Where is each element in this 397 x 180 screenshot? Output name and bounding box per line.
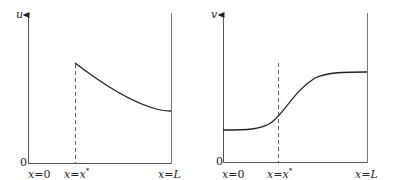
- right-tick-x0: x=0: [222, 168, 244, 180]
- left-ylabel: u: [16, 8, 23, 21]
- left-curve-u: [75, 63, 171, 111]
- left-tick-x0: x=0: [28, 168, 50, 180]
- right-tick-xL: x=L: [355, 168, 378, 180]
- left-tick-xL: x=L: [158, 168, 181, 180]
- right-tick-xstar: x=x*: [267, 167, 293, 180]
- right-ylabel: v: [211, 8, 218, 21]
- left-plot-u: u 0 x=0 x=x* x=L: [16, 8, 181, 180]
- diagram-canvas: u 0 x=0 x=x* x=L v 0 x=0 x=x* x=L: [0, 0, 397, 180]
- right-plot-v: v 0 x=0 x=x* x=L: [211, 8, 378, 180]
- right-origin-label: 0: [216, 155, 223, 168]
- left-tick-xstar: x=x*: [64, 167, 90, 180]
- left-origin-label: 0: [20, 156, 27, 169]
- right-curve-v: [223, 72, 367, 130]
